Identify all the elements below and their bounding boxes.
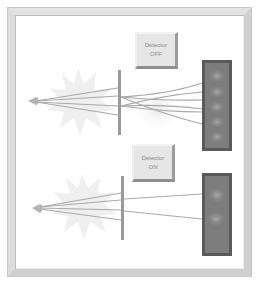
slit-barrier — [118, 70, 121, 135]
diffraction-glow — [130, 85, 186, 133]
light-source-icon — [28, 97, 38, 105]
light-burst-icon — [48, 68, 114, 136]
top-panel — [28, 60, 232, 151]
slit-barrier — [121, 176, 124, 240]
rays-to-screen — [124, 194, 202, 219]
light-source-icon — [32, 204, 42, 213]
detector-on-button[interactable]: Detector ON — [132, 144, 175, 182]
double-slit-diagram — [0, 0, 259, 286]
bottom-panel — [32, 173, 232, 256]
detector-off-button[interactable]: Detector OFF — [135, 32, 178, 69]
detector-button-state: ON — [149, 163, 158, 172]
detector-button-label: Detector — [145, 41, 168, 50]
detector-button-label: Detector — [142, 154, 165, 163]
detection-screen — [202, 60, 232, 151]
light-burst-icon — [52, 174, 116, 240]
detection-screen — [202, 173, 232, 256]
detector-button-state: OFF — [150, 50, 162, 59]
